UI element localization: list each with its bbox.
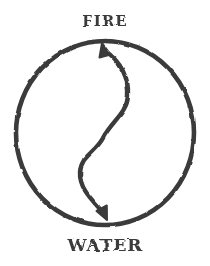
fire-water-cycle-diagram (0, 0, 210, 266)
diagram-canvas: FIRE WATER (0, 0, 210, 266)
water-label: WATER (0, 237, 210, 254)
s-curve-arrow-shaft (80, 51, 128, 210)
arrowhead-up-icon (100, 43, 111, 58)
